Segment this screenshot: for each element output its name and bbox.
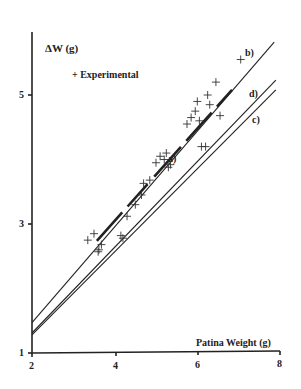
y-axis-label: ΔW (g) xyxy=(45,42,78,54)
data-point-plus xyxy=(193,97,201,105)
data-point-plus xyxy=(206,101,214,109)
axes xyxy=(28,32,280,357)
data-point-plus xyxy=(237,56,245,64)
x-tick-label: 2 xyxy=(29,360,34,371)
annotation-d: d) xyxy=(249,88,258,99)
model-line-d xyxy=(32,80,276,333)
x-axis xyxy=(32,351,280,353)
x-tick-label: 4 xyxy=(113,360,118,371)
chart-plot-area xyxy=(0,0,301,389)
data-point-plus xyxy=(183,120,191,128)
annotation-b: b) xyxy=(245,47,254,58)
experimental-points xyxy=(84,56,245,256)
annotation-c: c) xyxy=(252,114,260,125)
x-tick-label: 8 xyxy=(277,358,282,369)
y-tick-label: 5 xyxy=(19,89,24,100)
annotation-a: a) xyxy=(168,153,176,164)
model-line-a xyxy=(97,90,232,241)
data-point-plus xyxy=(123,212,131,220)
y-tick-label: 1 xyxy=(19,347,24,358)
data-point-plus xyxy=(191,107,199,115)
model-line-b xyxy=(32,42,274,323)
data-point-plus xyxy=(212,78,220,86)
y-tick-label: 3 xyxy=(19,218,24,229)
data-point-plus xyxy=(187,114,195,122)
data-point-plus xyxy=(84,236,92,244)
x-tick-label: 6 xyxy=(195,359,200,370)
model-lines xyxy=(32,42,276,335)
data-point-plus xyxy=(90,230,98,238)
data-point-plus xyxy=(204,91,212,99)
data-point-plus xyxy=(216,112,224,120)
data-point-plus xyxy=(152,159,160,167)
x-axis-label: Patina Weight (g) xyxy=(196,337,271,348)
model-line-c xyxy=(32,90,276,335)
legend-experimental: + Experimental xyxy=(72,69,139,80)
